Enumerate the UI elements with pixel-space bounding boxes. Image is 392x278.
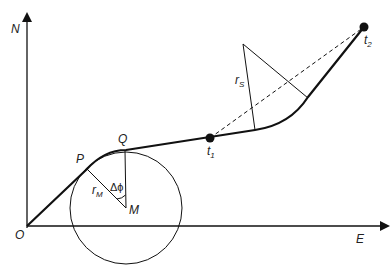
radius-rS-label: rS	[235, 73, 245, 89]
point-t1-label: t1	[207, 144, 215, 160]
point-t2-label: t2	[364, 33, 372, 49]
radius-rS-line-2	[243, 44, 308, 98]
radius-rM-label: rM	[92, 183, 103, 199]
angle-label: Δϕ	[110, 181, 124, 193]
track-geometry-diagram: N E O P Q M Δϕ rM rS t1 t2	[0, 0, 392, 278]
radius-MQ-line	[125, 151, 126, 208]
n-axis-label: N	[11, 22, 20, 36]
point-t1	[206, 134, 215, 143]
radius-rS-line	[243, 44, 255, 130]
angle-arc	[117, 195, 126, 199]
point-Q-label: Q	[118, 132, 127, 146]
chord-dashed-line	[210, 27, 364, 138]
trajectory-path	[27, 27, 364, 226]
point-t2	[360, 23, 369, 32]
origin-label: O	[15, 228, 24, 242]
e-axis-label: E	[356, 232, 365, 246]
point-P-label: P	[76, 152, 84, 166]
point-M-label: M	[129, 203, 139, 217]
